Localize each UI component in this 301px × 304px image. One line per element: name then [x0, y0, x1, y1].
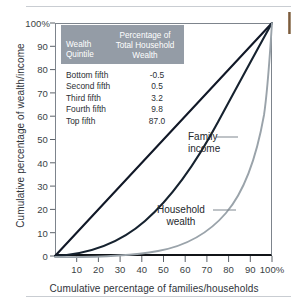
table-body: Bottom fifth -0.5 Second fifth 0.5 Third… [61, 64, 184, 127]
table-cell-label: Bottom fifth [66, 70, 108, 81]
table-cell-label: Fourth fifth [66, 104, 106, 115]
table-header-right-line3: Wealth [111, 51, 179, 61]
table-header-right: Percentage of Total Household Wealth [111, 31, 179, 61]
wealth-quintile-table: Wealth Quintile Percentage of Total Hous… [61, 25, 184, 127]
table-cell-value: 9.8 [135, 104, 179, 115]
table-header-right-line1: Percentage of [111, 31, 179, 41]
y-axis-title: Cumulative percentage of wealth/income [15, 21, 26, 251]
table-row: Third fifth 3.2 [66, 93, 179, 104]
table-cell-value: 3.2 [135, 93, 179, 104]
annotation-family-income-line2: income [188, 143, 220, 155]
table-row: Top fifth 87.0 [66, 116, 179, 127]
table-row: Fourth fifth 9.8 [66, 104, 179, 115]
table-cell-label: Second fifth [66, 81, 110, 92]
table-row: Bottom fifth -0.5 [66, 70, 179, 81]
table-header-left-line1: Wealth [66, 40, 94, 50]
table-header-right-line2: Total Household [111, 41, 179, 51]
annotation-household-wealth-line1: Household [157, 204, 205, 216]
annotation-household-wealth: Household wealth [157, 204, 205, 228]
table-cell-value: -0.5 [135, 70, 179, 81]
table-cell-value: 0.5 [135, 81, 179, 92]
figure-page: 100% 90 80 70 60 50 40 30 20 10 0 10 20 … [0, 0, 301, 304]
x-axis-title: Cumulative percentage of families/househ… [28, 283, 280, 294]
annotation-household-wealth-line2: wealth [157, 216, 205, 228]
table-cell-label: Third fifth [66, 93, 101, 104]
table-header-left: Wealth Quintile [66, 40, 94, 61]
y-tick-label-0: 0 [14, 251, 48, 262]
table-row: Second fifth 0.5 [66, 81, 179, 92]
y-tick-marks [50, 23, 55, 256]
annotation-family-income-line1: Family [188, 131, 220, 143]
annotation-family-income: Family income [188, 131, 220, 155]
table-cell-label: Top fifth [66, 116, 95, 127]
table-header-left-line2: Quintile [66, 50, 94, 60]
lorenz-curve-chart: 100% 90 80 70 60 50 40 30 20 10 0 10 20 … [0, 0, 301, 304]
table-header: Wealth Quintile Percentage of Total Hous… [61, 25, 184, 64]
x-tick-label-100: 100% [255, 264, 289, 275]
table-cell-value: 87.0 [135, 116, 179, 127]
